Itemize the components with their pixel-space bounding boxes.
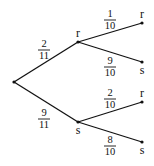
numerator: 2 <box>41 38 46 49</box>
leaf-rr <box>140 21 143 24</box>
denominator: 10 <box>105 99 116 110</box>
leaf-sr <box>140 100 143 103</box>
prob-r-s: 9 10 <box>104 55 116 78</box>
node-label-r1: r <box>76 26 80 40</box>
leaf-label-rr: r <box>140 7 144 21</box>
node-r1 <box>76 40 79 43</box>
leaf-label-rs: s <box>140 63 145 77</box>
denominator: 10 <box>105 67 116 78</box>
numerator: 2 <box>107 87 112 98</box>
prob-s-r: 2 10 <box>104 87 116 110</box>
root-node <box>12 80 15 83</box>
probability-tree-diagram: r s r s r s 2 11 9 11 1 10 9 10 2 10 8 1… <box>0 0 154 166</box>
prob-r-r: 1 10 <box>104 8 116 31</box>
prob-s-s: 8 10 <box>104 134 116 157</box>
node-label-s1: s <box>76 123 81 137</box>
denominator: 10 <box>105 20 116 31</box>
denominator: 11 <box>39 50 49 61</box>
numerator: 8 <box>107 134 112 145</box>
denominator: 11 <box>39 119 49 130</box>
leaf-label-sr: r <box>140 86 144 100</box>
numerator: 1 <box>107 8 112 19</box>
prob-root-r: 2 11 <box>38 38 50 61</box>
numerator: 9 <box>41 107 46 118</box>
prob-root-s: 9 11 <box>38 107 50 130</box>
leaf-label-ss: s <box>140 143 145 157</box>
numerator: 9 <box>107 55 112 66</box>
denominator: 10 <box>105 146 116 157</box>
